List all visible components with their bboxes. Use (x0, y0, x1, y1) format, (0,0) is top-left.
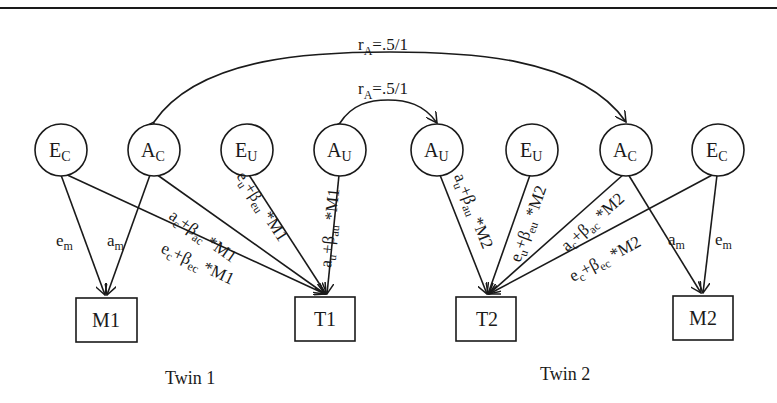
label-am-twin2: am (668, 230, 686, 252)
latent-ac-twin2: AC (600, 124, 652, 176)
latent-eu-twin2: EU (506, 124, 558, 176)
latent-au-twin2: AU (411, 124, 463, 176)
latent-ec-twin1: EC (35, 124, 87, 176)
label-am-twin1: am (107, 231, 125, 253)
label-em-twin2: em (715, 230, 733, 252)
outer-correlation-label: rA=.5/1 (358, 35, 408, 58)
latent-au-twin1: AU (314, 124, 366, 176)
path-ac1-t1 (156, 174, 325, 294)
observed-m1: M1 (76, 298, 137, 342)
path-ec1-m1 (61, 175, 105, 295)
label-au-twin1: au+βau *M1 (316, 187, 346, 268)
twin-2-label: Twin 2 (540, 364, 590, 384)
svg-text:T1: T1 (314, 308, 336, 330)
label-em-twin1: em (56, 231, 74, 253)
observed-t2: T2 (456, 297, 516, 341)
svg-text:M2: M2 (689, 307, 717, 329)
inner-correlation-label: rA=.5/1 (358, 79, 408, 102)
svg-text:T2: T2 (476, 308, 498, 330)
inner-correlation-arc (340, 100, 437, 123)
latent-ac-twin1: AC (128, 124, 180, 176)
observed-t1: T1 (295, 297, 355, 341)
label-eu-twin1: eu+βeu *M1 (230, 168, 292, 247)
observed-m2: M2 (673, 296, 733, 340)
twin-model-diagram: rA=.5/1 rA=.5/1 EC AC EU AU AU EU (0, 0, 777, 403)
twin-1-label: Twin 1 (165, 368, 215, 388)
path-ac2-m2 (628, 174, 701, 293)
svg-text:M1: M1 (92, 309, 120, 331)
latent-ec-twin2: EC (692, 124, 744, 176)
